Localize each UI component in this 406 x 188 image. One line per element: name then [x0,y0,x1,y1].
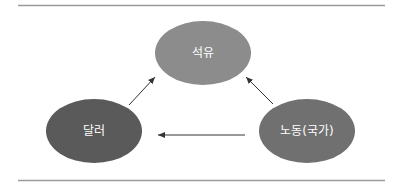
arrow-labor-to-oil [246,77,273,104]
dollar-label: 달러 [83,124,105,138]
labor-label: 노동(국가) [280,124,333,138]
node-dollar: 달러 [46,99,142,163]
node-labor: 노동(국가) [259,99,355,163]
oil-label: 석유 [192,46,214,60]
diagram-canvas: 석유 달러 노동(국가) [0,0,406,188]
arrow-dollar-to-oil [129,77,155,105]
node-oil: 석유 [155,21,251,85]
